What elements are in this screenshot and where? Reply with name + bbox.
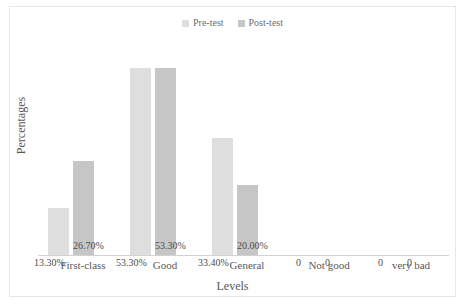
bar-pre[interactable] xyxy=(48,208,69,255)
legend-item-pre-test[interactable]: Pre-test xyxy=(182,18,224,28)
bar-pre[interactable] xyxy=(130,68,151,255)
bar-group: 13.30%26.70% xyxy=(42,44,124,255)
x-axis-line xyxy=(38,255,449,256)
legend-item-post-test[interactable]: Post-test xyxy=(238,18,283,28)
bar-group: 00 xyxy=(370,44,452,255)
x-axis-tick-label: very bad xyxy=(356,259,465,272)
data-label-post: 20.00% xyxy=(237,240,268,251)
plot-area: 13.30%26.70%53.30%53.30%33.40%20.00%0000 xyxy=(38,44,448,255)
bar-pre[interactable] xyxy=(212,138,233,255)
legend-swatch-post-test xyxy=(238,20,245,27)
y-axis-title: Percentages xyxy=(14,71,29,181)
bar-post[interactable] xyxy=(155,68,176,255)
legend-label-post-test: Post-test xyxy=(249,18,283,28)
data-label-post: 53.30% xyxy=(155,240,186,251)
bar-group: 00 xyxy=(288,44,370,255)
legend-label-pre-test: Pre-test xyxy=(193,18,224,28)
bar-group: 53.30%53.30% xyxy=(124,44,206,255)
chart-legend: Pre-test Post-test xyxy=(0,18,465,28)
bar-group: 33.40%20.00% xyxy=(206,44,288,255)
x-axis-title: Levels xyxy=(0,279,465,294)
data-label-post: 26.70% xyxy=(73,240,104,251)
chart-figure: Pre-test Post-test 13.30%26.70%53.30%53.… xyxy=(0,0,465,306)
legend-swatch-pre-test xyxy=(182,20,189,27)
